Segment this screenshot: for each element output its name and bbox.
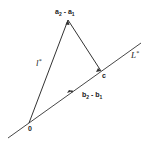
label-origin: 0: [28, 125, 32, 132]
label-l-star: l*: [36, 58, 42, 68]
label-b-vector: b2 - b1: [82, 91, 103, 100]
label-apex: a2 - a1: [55, 8, 75, 17]
vector-diagram: a2 - a1 c 0 b2 - b1 l* L*: [0, 0, 156, 143]
point-marker: [71, 91, 73, 93]
label-line-L-star: L*: [130, 50, 139, 60]
segment-origin-to-apex: [29, 20, 68, 123]
line-l-star: [8, 43, 141, 138]
label-c: c: [102, 72, 106, 79]
segment-apex-to-c: [68, 20, 101, 71]
